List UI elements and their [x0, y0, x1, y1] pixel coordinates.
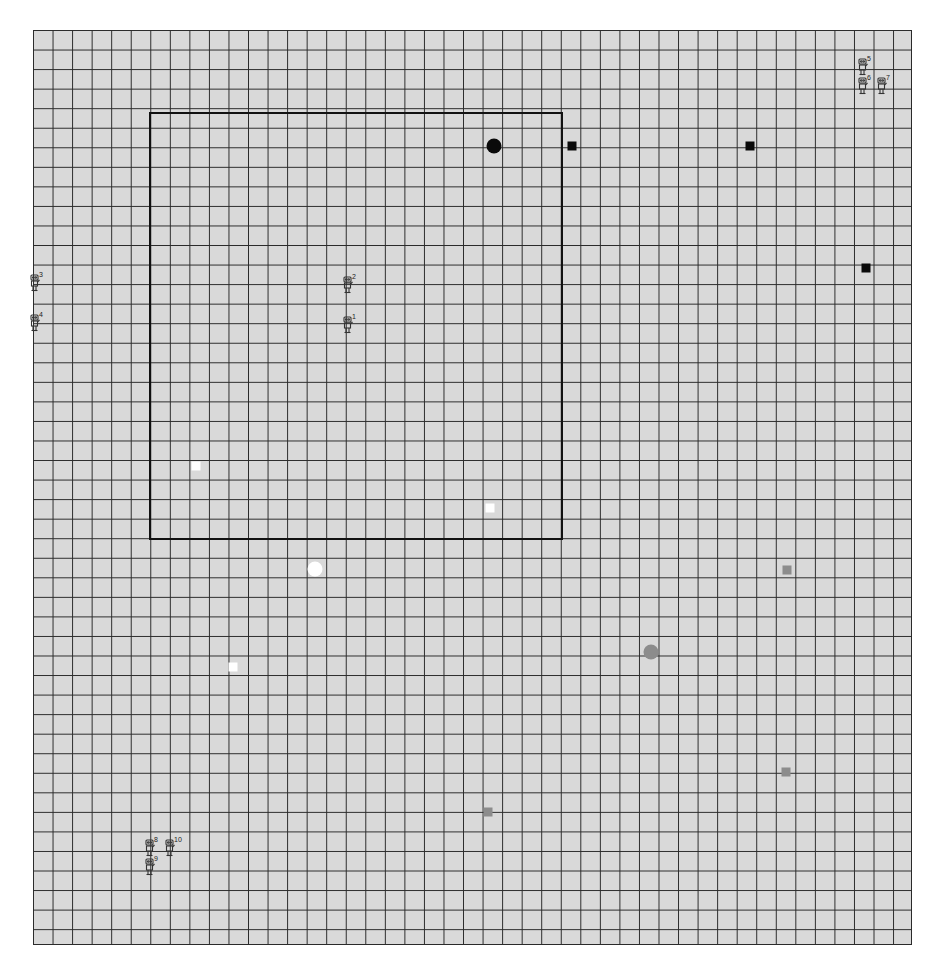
robot-icon: 7 [876, 77, 894, 95]
gray-square-marker [782, 768, 791, 777]
robot-icon: 8 [144, 839, 162, 857]
robot-icon: 3 [29, 274, 47, 292]
black-circle-marker [487, 139, 502, 154]
robot-id-label: 10 [174, 836, 182, 843]
robot-id-label: 5 [867, 55, 871, 62]
robot-icon: 2 [342, 276, 360, 294]
black-square-marker [862, 264, 871, 273]
robot-icon: 10 [164, 839, 182, 857]
gray-square-marker [783, 566, 792, 575]
black-square-marker [568, 142, 577, 151]
gray-square-marker [484, 808, 493, 817]
white-square-marker [229, 663, 238, 672]
white-circle-marker [308, 562, 323, 577]
black-square-marker [746, 142, 755, 151]
robot-id-label: 7 [886, 74, 890, 81]
robot-id-label: 1 [352, 313, 356, 320]
robot-icon: 9 [144, 858, 162, 876]
robot-id-label: 9 [154, 855, 158, 862]
robot-id-label: 2 [352, 273, 356, 280]
robot-id-label: 4 [39, 311, 43, 318]
white-square-marker [192, 462, 201, 471]
robot-id-label: 6 [867, 74, 871, 81]
white-square-marker [486, 504, 495, 513]
robot-id-label: 8 [154, 836, 158, 843]
robot-icon: 5 [857, 58, 875, 76]
robot-id-label: 3 [39, 271, 43, 278]
robot-icon: 6 [857, 77, 875, 95]
gray-circle-marker [644, 645, 659, 660]
robot-icon: 1 [342, 316, 360, 334]
robot-icon: 4 [29, 314, 47, 332]
